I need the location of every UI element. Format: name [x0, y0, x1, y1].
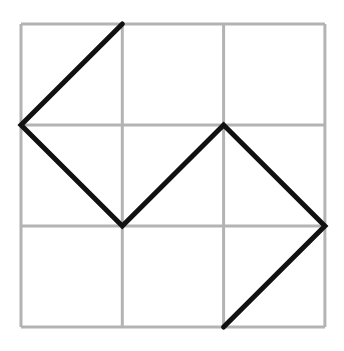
grid-diagram: [0, 0, 344, 351]
zigzag-path: [21, 24, 325, 327]
